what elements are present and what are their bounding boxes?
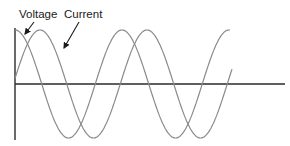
voltage-arrow-icon — [25, 22, 34, 34]
current-arrow-icon — [64, 22, 79, 48]
current-label: Current — [64, 8, 103, 20]
voltage-label: Voltage — [19, 8, 57, 20]
voltage-current-phase-diagram: Voltage Current — [0, 0, 290, 146]
